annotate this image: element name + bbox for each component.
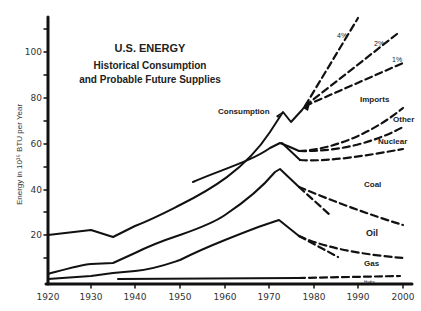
svg-text:1990: 1990: [347, 292, 370, 302]
label-other: Other: [393, 115, 414, 124]
svg-text:1960: 1960: [214, 292, 237, 302]
chart-subtitle-1: Historical Consumption: [70, 60, 230, 71]
label-2pct: 2%: [374, 40, 384, 47]
label-hydro: Hydro: [364, 279, 375, 284]
series-gas: [48, 220, 299, 279]
y-tick-labels: 100 80 60 40 20: [25, 47, 42, 240]
y-tick-100: 100: [25, 47, 42, 57]
x-tick-labels: 19201930 19401950 19601970 19801990 2000: [37, 292, 415, 302]
label-consumption: Consumption: [218, 107, 270, 116]
oil-projection: [299, 187, 403, 225]
label-gas: Gas: [364, 259, 379, 268]
y-axis-label: Energy in 10¹⁵ BTU per Year: [15, 100, 24, 210]
series-domestic-total: [193, 143, 299, 182]
label-oil: Oil: [366, 228, 378, 238]
imports-projections: [305, 18, 403, 106]
label-1pct: 1%: [392, 56, 402, 63]
svg-text:1940: 1940: [124, 292, 147, 302]
svg-text:1950: 1950: [169, 292, 192, 302]
y-tick-80: 80: [31, 93, 43, 103]
y-tick-20: 20: [31, 230, 43, 240]
svg-text:1970: 1970: [258, 292, 281, 302]
gas-projection: [299, 236, 403, 258]
label-4pct: 4%: [337, 32, 347, 39]
svg-text:1930: 1930: [80, 292, 103, 302]
chart-title: U.S. ENERGY: [70, 42, 230, 54]
series-oil: [48, 169, 299, 274]
y-tick-40: 40: [31, 185, 43, 195]
label-coal: Coal: [364, 180, 381, 189]
series-consumption: [48, 106, 305, 237]
y-tick-60: 60: [31, 139, 43, 149]
svg-text:1980: 1980: [303, 292, 326, 302]
series-hydro: [118, 278, 298, 279]
hydro-projection: [298, 276, 400, 278]
svg-text:1920: 1920: [37, 292, 60, 302]
label-imports: Imports: [360, 95, 389, 104]
label-nuclear: Nuclear: [378, 137, 407, 146]
svg-text:2000: 2000: [392, 292, 415, 302]
chart-subtitle-2: and Probable Future Supplies: [70, 74, 230, 85]
series-coal-split: [282, 143, 300, 160]
